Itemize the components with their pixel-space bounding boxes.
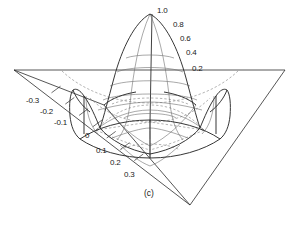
x-tick-label-neg-0-1: -0.1 — [54, 118, 67, 127]
z-tick-label-0-4: 0.4 — [186, 48, 197, 57]
z-tick-label-0-6: 0.6 — [180, 34, 191, 43]
peak-profile-left — [100, 14, 150, 128]
contour-0-8 — [126, 55, 174, 58]
surface-outline — [70, 14, 231, 158]
figure-caption: (c) — [0, 188, 298, 198]
tick-neg-0-3 — [52, 86, 61, 93]
x-tick-label-0-1: 0.1 — [96, 146, 107, 155]
z-tick-label-0-2: 0.2 — [192, 64, 203, 73]
hidden-diag-right — [150, 105, 204, 130]
x-tick-label-0-2: 0.2 — [110, 158, 121, 167]
figure-panel: 1.0 0.8 0.6 0.4 0.2 -0.3 -0.2 -0.1 0 0.1… — [0, 0, 298, 225]
lobe-left-outer-edge — [70, 90, 80, 139]
contour-0-4 — [110, 81, 190, 86]
x-tick-label-0-3: 0.3 — [124, 170, 135, 179]
z-tick-label-0-8: 0.8 — [173, 20, 184, 29]
z-axis-vertical — [150, 14, 152, 122]
lobe-right-outer-edge — [220, 90, 230, 139]
z-tick-label-1-0: 1.0 — [157, 6, 168, 15]
mesh-radial-d — [150, 128, 188, 138]
x-tick-label-zero: 0 — [85, 131, 89, 140]
x-tick-label-neg-0-2: -0.2 — [40, 107, 53, 116]
z-axis-line — [150, 14, 152, 122]
x-tick-label-neg-0-3: -0.3 — [26, 96, 39, 105]
